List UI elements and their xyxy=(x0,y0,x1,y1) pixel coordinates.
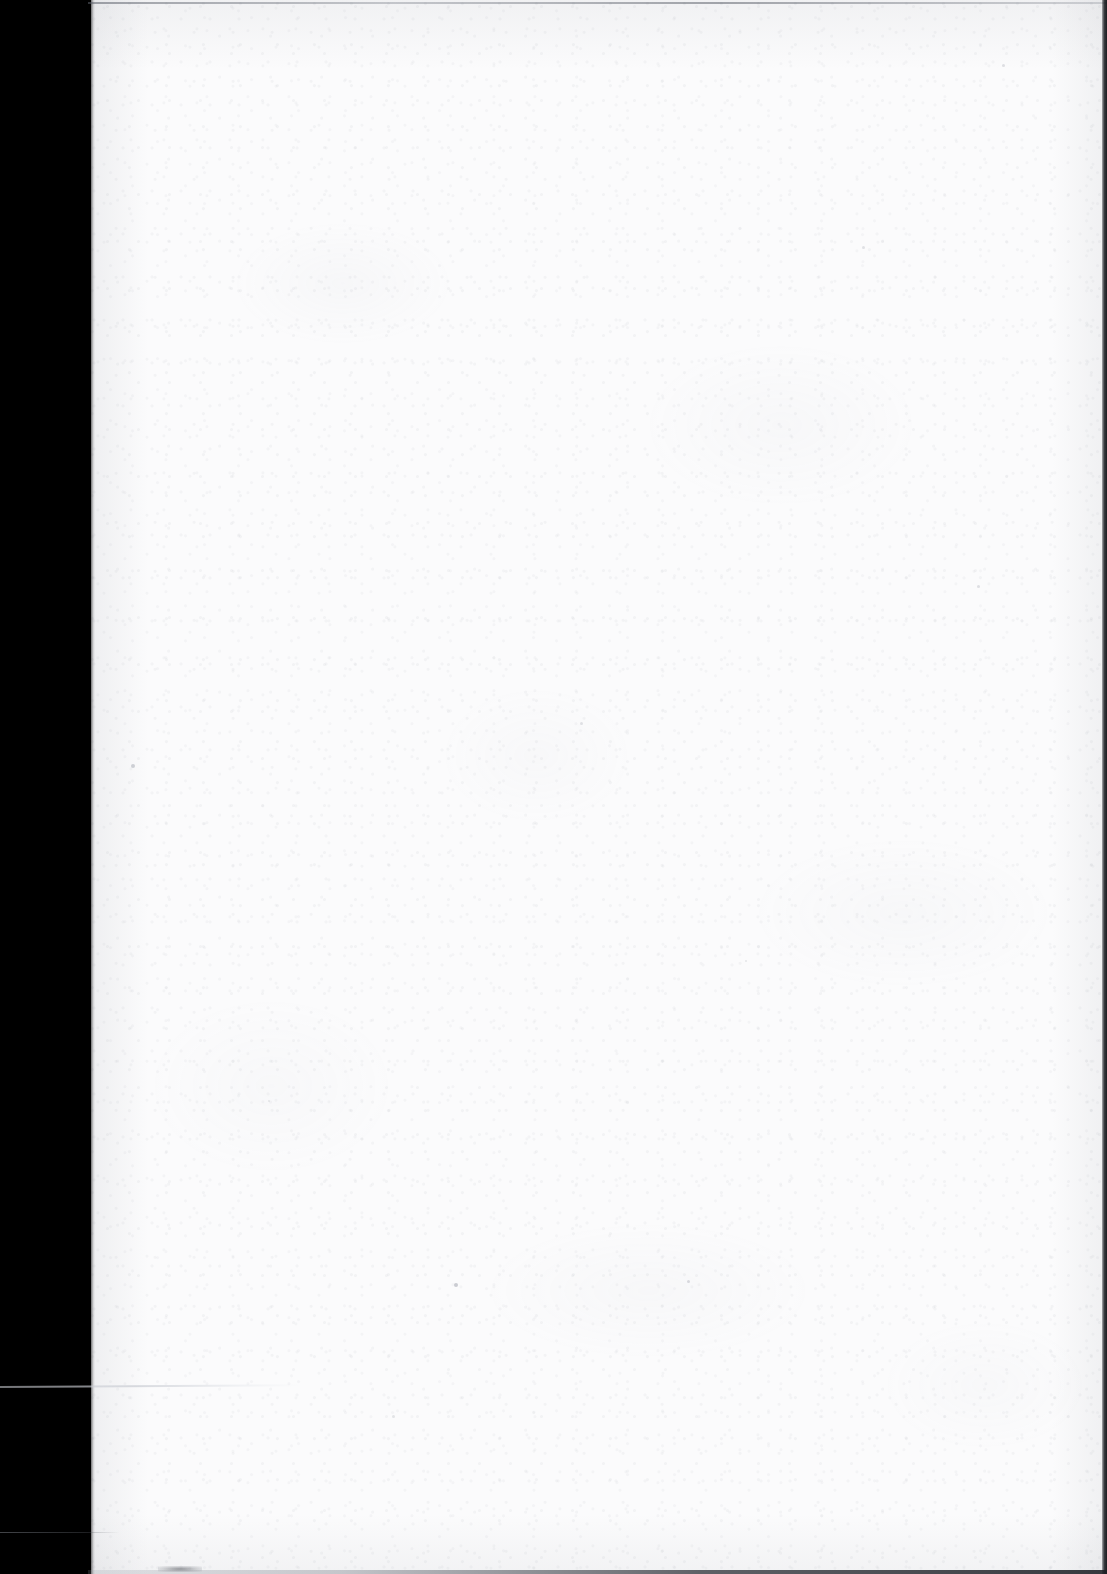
page-text-body xyxy=(198,120,988,1450)
scan-streak-artifact-lower xyxy=(0,1532,120,1533)
bottom-edge-smudge xyxy=(158,1566,202,1572)
scanner-gutter xyxy=(0,0,91,1574)
page-edge-bottom xyxy=(88,1570,1107,1574)
page-edge-top xyxy=(88,2,1107,4)
page-surface xyxy=(88,0,1107,1574)
page-edge-right xyxy=(1102,0,1107,1574)
scanned-page xyxy=(0,0,1107,1574)
